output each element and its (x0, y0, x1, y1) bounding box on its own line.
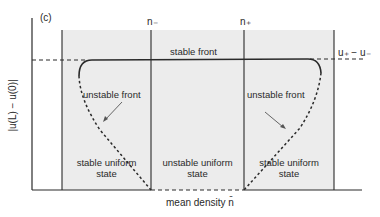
stable-front-label: stable front (170, 46, 217, 57)
region-middle-line-2: state (151, 168, 244, 179)
n-plus-label: n₊ (240, 16, 251, 27)
region-left-line-1: stable uniform (62, 157, 151, 168)
region-right-line-2: state (244, 168, 334, 179)
u-difference-label: u₊ − u₋ (338, 47, 371, 58)
region-middle-label: unstable uniform state (151, 157, 244, 179)
y-axis-label: |u(L) − u(0)| (7, 56, 18, 156)
region-right-line-1: stable uniform (244, 157, 334, 168)
region-right-label: stable uniform state (244, 157, 334, 179)
phase-diagram (0, 0, 380, 217)
region-middle-line-1: unstable uniform (151, 157, 244, 168)
region-left-label: stable uniform state (62, 157, 151, 179)
unstable-front-left-label: unstable front (83, 89, 141, 100)
n-minus-label: n₋ (147, 16, 158, 27)
panel-label: (c) (40, 12, 52, 23)
x-axis-label: mean density n̄ (166, 197, 234, 208)
unstable-front-right-label: unstable front (247, 89, 305, 100)
region-left-line-2: state (62, 168, 151, 179)
